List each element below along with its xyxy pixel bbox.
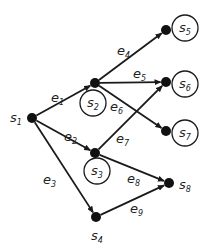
node-label-s4: s4 [91,228,103,245]
edge-label-e9: e9 [130,201,143,218]
edge-label-e8-base: e [127,171,135,186]
edge-label-e5-subscript: 5 [141,74,146,83]
node-label-s2-subscript: 2 [94,103,99,112]
edge-label-e1: e1 [51,90,64,107]
node-label-s7: s7 [179,125,192,142]
node-label-s1-subscript: 1 [17,118,22,127]
edge-label-e7-base: e [116,131,124,146]
edge-label-e9-subscript: 9 [138,209,143,218]
node-label-s7-subscript: 7 [186,133,192,142]
node-label-s4-subscript: 4 [98,236,103,245]
node-s4 [91,212,101,222]
edge-label-e5-base: e [133,66,141,81]
edge-label-e8-subscript: 8 [135,179,140,188]
edge-label-e2-base: e [64,129,72,144]
node-s8 [164,178,174,188]
node-s3 [90,148,100,158]
edge-label-e4: e4 [117,43,130,60]
node-s2 [90,78,100,88]
node-s5 [161,25,171,35]
edge-label-e2: e2 [64,129,77,146]
edge-label-e6-subscript: 6 [118,107,123,116]
edge-label-e3-subscript: 3 [51,180,56,189]
nodes-layer [27,25,174,222]
edge-e7 [99,86,163,150]
node-label-s1: s1 [10,110,22,127]
edge-label-e3: e3 [43,172,56,189]
node-s7 [161,126,171,136]
edge-e4 [99,33,162,80]
edge-label-e2-subscript: 2 [72,137,77,146]
state-graph: e1e2e3e4e5e6e7e8e9s1s2s3s4s5s6s7s8 [0,0,213,251]
edge-label-e1-base: e [51,90,59,105]
node-s6 [161,77,171,87]
node-label-s5: s5 [179,20,191,37]
node-label-s2: s2 [87,95,99,112]
node-label-s6: s6 [179,76,191,93]
edge-label-e6-base: e [110,99,118,114]
node-label-s8: s8 [179,177,191,194]
edge-label-e9-base: e [130,201,138,216]
node-label-s8-subscript: 8 [186,185,191,194]
node-s1 [27,113,37,123]
edge-label-e7: e7 [116,131,130,148]
node-label-s6-subscript: 6 [186,84,191,93]
edge-e5 [100,82,161,83]
edge-label-e3-base: e [43,172,51,187]
edge-label-e1-subscript: 1 [59,98,64,107]
node-label-s3: s3 [91,163,103,180]
edge-e6 [99,86,161,128]
self-loops-layer [80,15,198,184]
edge-label-e4-base: e [117,43,125,58]
edge-label-e5: e5 [133,66,146,83]
edge-label-e7-subscript: 7 [124,139,130,148]
edge-label-e8: e8 [127,171,140,188]
node-label-s5-subscript: 5 [186,28,191,37]
edge-label-e4-subscript: 4 [125,51,130,60]
node-label-s3-subscript: 3 [98,171,103,180]
